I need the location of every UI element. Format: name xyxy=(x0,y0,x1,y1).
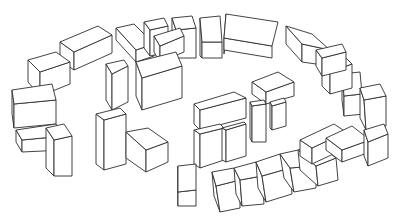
stone-circle-drawing xyxy=(0,0,396,220)
block xyxy=(126,128,168,172)
block xyxy=(364,124,388,166)
block xyxy=(12,84,56,128)
block xyxy=(224,14,278,58)
block xyxy=(194,124,224,168)
block xyxy=(250,100,266,142)
block xyxy=(96,108,126,170)
block xyxy=(46,124,72,176)
block-face xyxy=(200,16,222,42)
block-face xyxy=(222,128,226,162)
block xyxy=(178,164,196,206)
block-face xyxy=(202,42,222,58)
block-face xyxy=(172,16,196,30)
block-face xyxy=(178,164,196,192)
block-face xyxy=(14,100,56,128)
block xyxy=(136,52,182,110)
block xyxy=(200,16,222,58)
block-face xyxy=(226,124,246,162)
block-circle-illustration xyxy=(0,0,396,220)
block-face xyxy=(178,190,196,206)
block xyxy=(252,72,294,104)
block-face xyxy=(96,114,104,170)
block-face xyxy=(12,84,56,104)
block xyxy=(316,44,346,76)
block xyxy=(106,60,128,110)
block-face xyxy=(194,130,200,168)
block xyxy=(360,84,386,130)
block-face xyxy=(54,136,72,176)
block-face xyxy=(104,114,126,170)
block-face xyxy=(252,104,266,142)
block-face xyxy=(200,128,224,168)
block xyxy=(222,122,246,162)
block xyxy=(270,98,286,130)
block-face xyxy=(272,102,286,130)
